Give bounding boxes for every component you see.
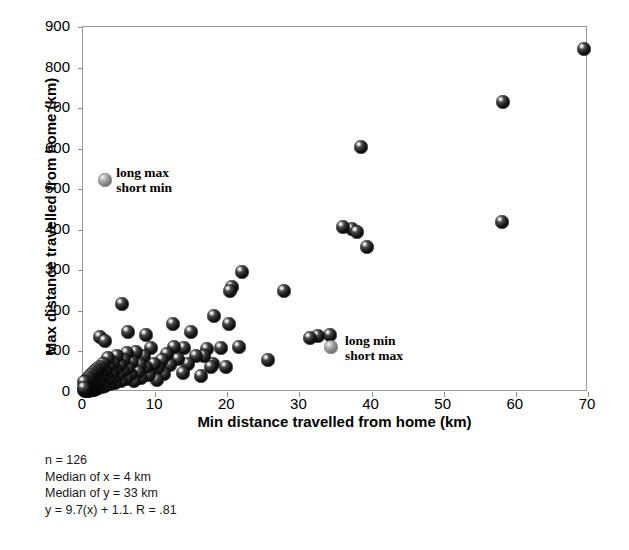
scatter-plot-figure: Max distance travelled from home (km) Mi…	[0, 0, 629, 550]
y-tick-label: 300	[8, 260, 70, 277]
data-point	[185, 325, 198, 338]
footnote-regression: y = 9.7(x) + 1.1. R = .81	[45, 502, 177, 519]
data-point	[121, 325, 134, 338]
data-point	[303, 332, 316, 345]
data-point	[351, 225, 364, 238]
y-tick-mark	[78, 149, 83, 150]
footnote-median-x: Median of x = 4 km	[45, 469, 177, 486]
statistics-footnote: n = 126 Median of x = 4 km Median of y =…	[45, 452, 177, 518]
annotation-line: long max	[116, 165, 172, 180]
y-tick-mark	[78, 311, 83, 312]
data-point	[115, 297, 128, 310]
x-tick-label: 60	[485, 395, 545, 412]
x-tick-label: 30	[268, 395, 328, 412]
x-axis-title: Min distance travelled from home (km)	[82, 413, 587, 430]
x-tick-label: 0	[52, 395, 112, 412]
y-tick-label: 900	[8, 17, 70, 34]
y-tick-mark	[78, 270, 83, 271]
x-tick-mark	[299, 392, 300, 397]
data-point	[578, 43, 591, 56]
data-point	[355, 140, 368, 153]
annotation-line: short min	[116, 180, 172, 195]
x-tick-mark	[588, 392, 589, 397]
data-point	[232, 340, 245, 353]
data-point	[278, 285, 291, 298]
data-point	[219, 360, 232, 373]
x-tick-label: 10	[124, 395, 184, 412]
x-tick-label: 70	[557, 395, 617, 412]
plot-area: long maxshort minlong minshort max	[82, 26, 587, 391]
data-point	[77, 382, 90, 395]
y-tick-label: 800	[8, 58, 70, 75]
annotation-line: short max	[345, 348, 403, 363]
data-point	[98, 335, 111, 348]
x-tick-mark	[444, 392, 445, 397]
x-tick-mark	[372, 392, 373, 397]
annotation-line: long min	[345, 333, 403, 348]
y-tick-mark	[78, 230, 83, 231]
x-tick-mark	[516, 392, 517, 397]
annotation-long-max-short-min: long maxshort min	[116, 165, 172, 195]
annotation-long-min-short-max: long minshort max	[345, 333, 403, 363]
data-point	[140, 329, 153, 342]
x-tick-label: 20	[196, 395, 256, 412]
x-tick-label: 50	[413, 395, 473, 412]
data-point	[223, 317, 236, 330]
y-tick-mark	[78, 68, 83, 69]
y-tick-label: 500	[8, 179, 70, 196]
y-tick-label: 100	[8, 341, 70, 358]
footnote-n: n = 126	[45, 452, 177, 469]
y-tick-label: 200	[8, 301, 70, 318]
y-tick-mark	[78, 189, 83, 190]
data-point	[207, 309, 220, 322]
footnote-median-y: Median of y = 33 km	[45, 485, 177, 502]
data-point	[98, 174, 111, 187]
data-point	[262, 354, 275, 367]
data-point	[167, 317, 180, 330]
y-tick-mark	[78, 351, 83, 352]
x-tick-mark	[155, 392, 156, 397]
y-tick-label: 600	[8, 139, 70, 156]
y-tick-label: 700	[8, 98, 70, 115]
data-point	[214, 342, 227, 355]
data-point	[336, 220, 349, 233]
data-point	[176, 366, 189, 379]
y-tick-label: 400	[8, 220, 70, 237]
y-tick-mark	[78, 27, 83, 28]
data-point	[325, 340, 338, 353]
data-point	[496, 96, 509, 109]
data-point	[224, 284, 237, 297]
y-tick-mark	[78, 108, 83, 109]
x-tick-label: 40	[341, 395, 401, 412]
data-point	[360, 241, 373, 254]
data-point	[194, 369, 207, 382]
data-point	[205, 360, 218, 373]
data-point	[235, 265, 248, 278]
x-tick-mark	[227, 392, 228, 397]
data-point	[496, 215, 509, 228]
